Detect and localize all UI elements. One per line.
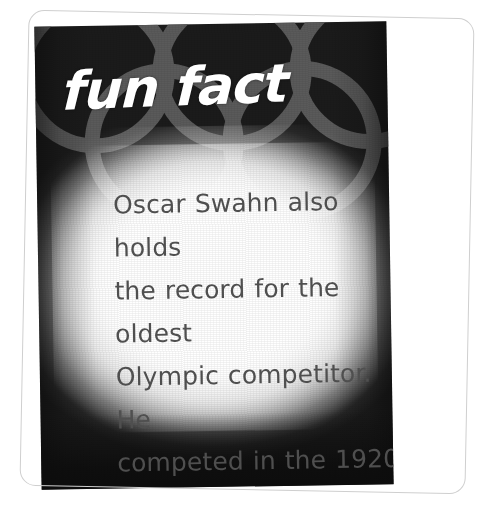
body-line: Oscar Swahn also holds xyxy=(113,179,394,269)
body-line: the record for the oldest xyxy=(114,265,393,355)
card-title: fun fact xyxy=(62,56,290,117)
body-line: Olympic competitor. He xyxy=(116,351,394,441)
fun-fact-card-page: fun fact Oscar Swahn also holds the reco… xyxy=(0,0,494,519)
body-line: competed in the 1920 xyxy=(117,437,394,484)
card-body-text: Oscar Swahn also holds the record for th… xyxy=(113,179,394,490)
fun-fact-card: fun fact Oscar Swahn also holds the reco… xyxy=(34,21,393,489)
